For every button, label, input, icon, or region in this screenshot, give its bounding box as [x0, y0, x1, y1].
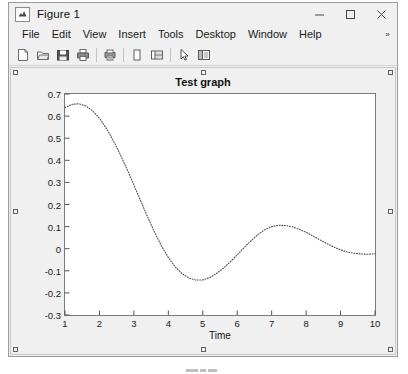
save-floppy-icon[interactable] [53, 46, 72, 64]
menu-bar: File Edit View Insert Tools Desktop Wind… [9, 25, 397, 44]
plot-svg [65, 94, 375, 315]
figure-window: Figure 1 File Edit View [8, 2, 398, 357]
window-title: Figure 1 [37, 8, 80, 20]
maximize-button[interactable] [335, 3, 366, 25]
open-folder-icon[interactable] [33, 46, 52, 64]
plot-tools-icon[interactable] [194, 46, 213, 64]
window-controls [304, 3, 397, 25]
y-tick-label: 0.6 [48, 111, 61, 122]
menu-item-window[interactable]: Window [242, 25, 293, 44]
plot-area[interactable]: -0.3-0.2-0.100.10.20.30.40.50.60.7 12345… [64, 93, 376, 316]
x-tick-label: 10 [370, 318, 381, 329]
y-tick-label: 0 [56, 243, 61, 254]
selection-handle-top-right[interactable] [388, 70, 393, 75]
chart-title: Test graph [11, 76, 395, 88]
menu-item-help[interactable]: Help [293, 25, 328, 44]
x-tick-label: 6 [235, 318, 240, 329]
taskbar-sliver [186, 366, 220, 374]
taskbar-sliver-block [208, 369, 217, 372]
selection-handle-bottom-left[interactable] [13, 347, 18, 352]
minimize-button[interactable] [304, 3, 335, 25]
y-tick-label: -0.2 [45, 287, 61, 298]
legend-icon[interactable] [127, 46, 146, 64]
y-tick-label: 0.7 [48, 89, 61, 100]
x-tick-label: 9 [338, 318, 343, 329]
toolbar-separator-1 [96, 48, 97, 62]
x-tick-label: 4 [166, 318, 171, 329]
x-axis-label: Time [65, 330, 375, 341]
new-document-icon[interactable] [13, 46, 32, 64]
title-bar: Figure 1 [9, 3, 397, 25]
menu-item-desktop[interactable]: Desktop [190, 25, 242, 44]
matlab-figure-icon [15, 7, 30, 22]
toolbar-separator-2 [123, 48, 124, 62]
selection-handle-middle-left[interactable] [13, 209, 18, 214]
x-tick-label: 2 [97, 318, 102, 329]
print-icon[interactable] [73, 46, 92, 64]
taskbar-sliver-block [186, 369, 198, 372]
menu-item-edit[interactable]: Edit [46, 25, 77, 44]
x-tick-label: 7 [269, 318, 274, 329]
y-tick-label: 0.2 [48, 199, 61, 210]
x-tick-label: 8 [303, 318, 308, 329]
print-preview-icon[interactable] [100, 46, 119, 64]
y-tick-label: -0.3 [45, 310, 61, 321]
toolbar [9, 44, 397, 66]
y-tick-label: 0.3 [48, 177, 61, 188]
selection-handle-top-left[interactable] [13, 70, 18, 75]
menu-item-insert[interactable]: Insert [112, 25, 152, 44]
y-tick-label: 0.4 [48, 155, 61, 166]
menu-item-view[interactable]: View [77, 25, 113, 44]
selection-handle-bottom-middle[interactable] [201, 347, 206, 352]
selection-handle-middle-right[interactable] [388, 209, 393, 214]
selection-handle-top-middle[interactable] [201, 70, 206, 75]
selection-handle-bottom-right[interactable] [388, 347, 393, 352]
y-tick-label: -0.1 [45, 265, 61, 276]
toolbar-separator-3 [170, 48, 171, 62]
x-tick-label: 1 [62, 318, 67, 329]
arrow-pointer-icon[interactable] [174, 46, 193, 64]
taskbar-sliver-block [200, 369, 206, 372]
y-tick-label: 0.5 [48, 133, 61, 144]
x-tick-label: 3 [131, 318, 136, 329]
x-tick-label: 5 [200, 318, 205, 329]
close-button[interactable] [366, 3, 397, 25]
colorbar-icon[interactable] [147, 46, 166, 64]
menu-overflow-icon[interactable]: » [383, 30, 392, 39]
figure-canvas[interactable]: Test graph -0.3-0.2-0.100.10.20.30.40.50… [10, 67, 396, 355]
menu-item-tools[interactable]: Tools [152, 25, 190, 44]
menu-item-file[interactable]: File [16, 25, 46, 44]
y-tick-label: 0.1 [48, 221, 61, 232]
